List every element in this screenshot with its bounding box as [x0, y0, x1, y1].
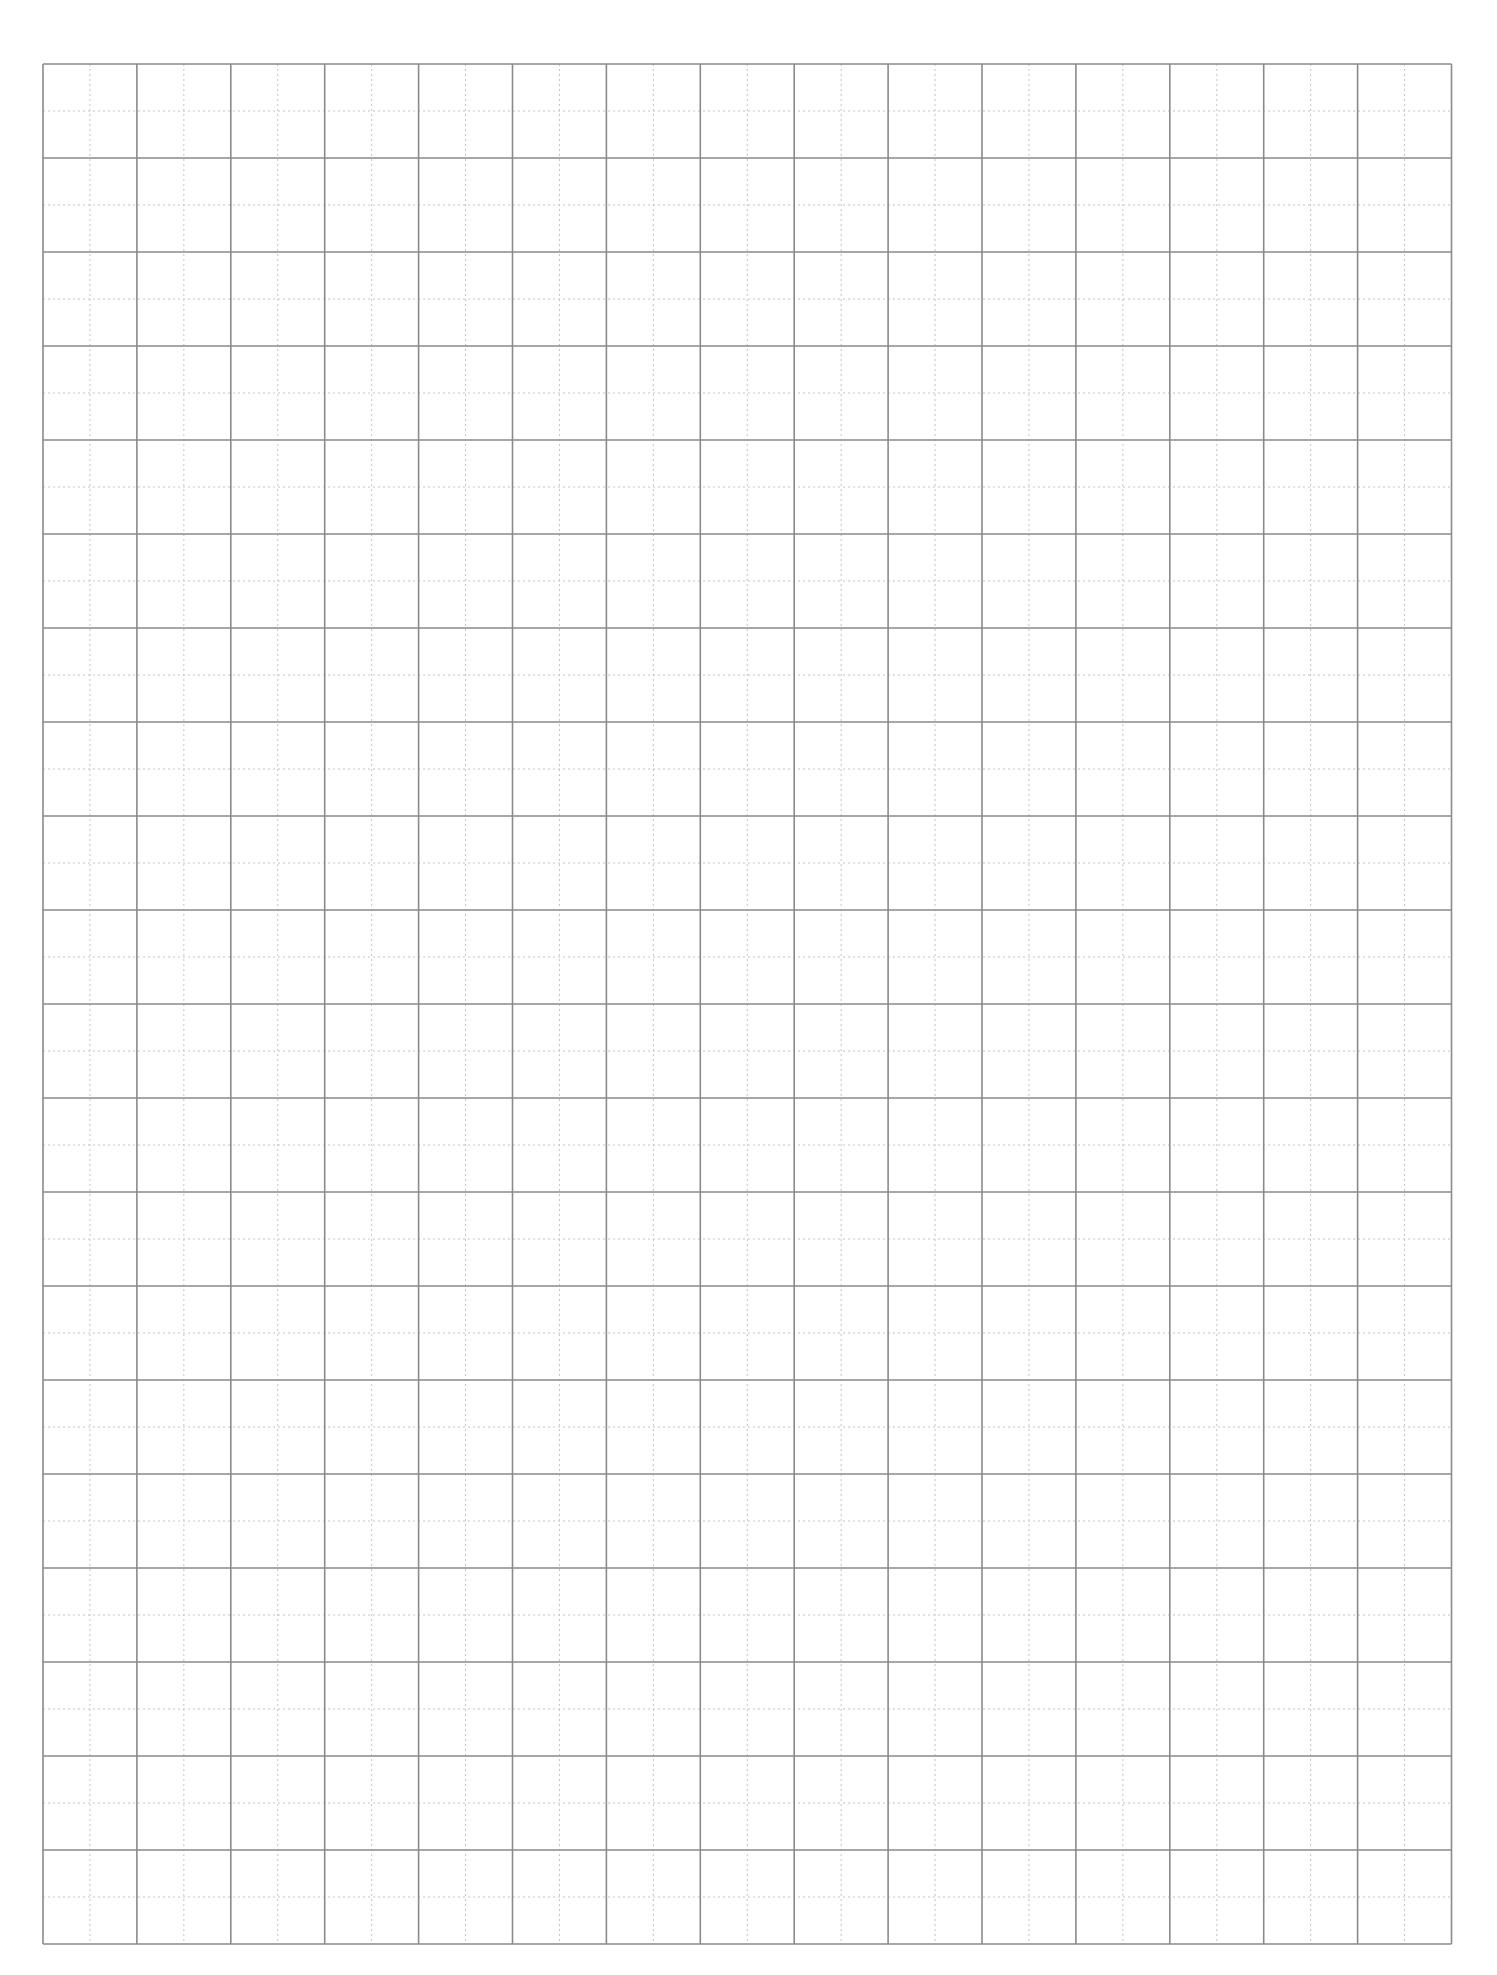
graph-paper-grid	[0, 0, 1497, 1975]
graph-paper-page	[0, 0, 1497, 1975]
major-gridlines	[43, 64, 1452, 1944]
